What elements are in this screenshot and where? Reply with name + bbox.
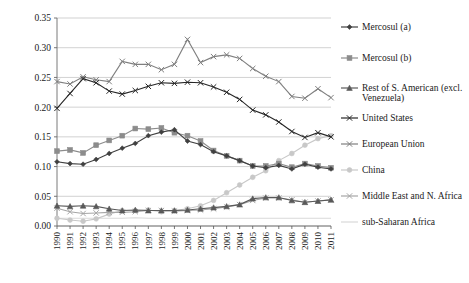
xtick-label: 2001	[196, 232, 206, 250]
series-european-union	[54, 37, 333, 101]
data-point-marker	[328, 95, 333, 100]
ytick-label: 0.10	[34, 162, 51, 172]
data-point-marker	[68, 161, 73, 166]
series-line	[57, 79, 331, 138]
xtick-label: 2010	[313, 232, 323, 251]
line-chart: 0.000.050.100.150.200.250.300.3519901991…	[0, 0, 469, 283]
xtick-label: 2009	[300, 232, 310, 251]
legend-item-united-states[interactable]: United States	[341, 113, 413, 123]
ytick-label: 0.25	[34, 73, 51, 83]
legend-item-sub-saharan-africa[interactable]: sub-Saharan Africa	[341, 217, 436, 227]
legend-label-line2: Venezuela)	[362, 93, 404, 104]
ytick-label: 0.00	[34, 221, 51, 231]
legend-label: European Union	[362, 139, 425, 149]
xtick-label: 1993	[91, 232, 101, 251]
data-point-marker	[263, 74, 268, 79]
data-point-marker	[55, 149, 60, 154]
xtick-label: 2005	[248, 232, 258, 251]
xtick-label: 1995	[117, 232, 127, 251]
data-point-marker	[55, 159, 60, 164]
xtick-label: 2004	[235, 232, 245, 251]
data-point-marker	[81, 219, 86, 224]
data-point-marker	[107, 138, 112, 143]
legend-item-mercosul-a[interactable]: Mercosul (a)	[341, 22, 411, 33]
data-point-marker	[289, 129, 294, 134]
data-point-marker	[315, 86, 320, 91]
xtick-label: 1999	[170, 232, 180, 251]
legend-item-european-union[interactable]: European Union	[341, 139, 425, 149]
data-point-marker	[81, 151, 86, 156]
data-point-marker	[107, 151, 112, 156]
data-point-marker	[276, 79, 281, 84]
data-point-marker	[315, 130, 320, 135]
ytick-label: 0.20	[34, 103, 51, 113]
data-point-marker	[81, 162, 86, 167]
legend-label: Mercosul (b)	[362, 53, 411, 64]
xtick-label: 2006	[261, 232, 271, 251]
data-point-marker	[198, 60, 203, 65]
legend-swatch-marker	[347, 56, 352, 61]
xtick-label: 1996	[130, 232, 140, 251]
data-point-marker	[250, 66, 255, 71]
xtick-label: 1998	[157, 232, 167, 251]
data-point-marker	[263, 112, 268, 117]
data-point-marker	[303, 143, 308, 148]
data-point-marker	[316, 136, 321, 141]
data-point-marker	[289, 151, 294, 156]
data-point-marker	[276, 119, 281, 124]
ytick-label: 0.15	[34, 132, 51, 142]
data-point-marker	[67, 91, 72, 96]
data-point-marker	[211, 84, 216, 89]
xtick-label: 1997	[144, 232, 154, 251]
ytick-label: 0.05	[34, 192, 51, 202]
legend-label: Mercosul (a)	[362, 22, 411, 33]
xtick-label: 1994	[104, 232, 114, 251]
data-point-marker	[159, 67, 164, 72]
data-point-marker	[94, 143, 99, 148]
data-point-marker	[133, 141, 138, 146]
data-point-marker	[94, 157, 99, 162]
xtick-label: 2008	[287, 232, 297, 251]
series-united-states	[54, 76, 333, 140]
data-point-marker	[68, 148, 73, 153]
xtick-label: 1990	[52, 232, 62, 251]
legend-item-china[interactable]: China	[341, 165, 385, 175]
data-point-marker	[224, 90, 229, 95]
xtick-label: 2011	[326, 232, 336, 250]
legend-swatch-marker	[347, 168, 352, 173]
legend-label: sub-Saharan Africa	[362, 217, 436, 227]
legend-item-rest-of-s-american-excl-venezuela[interactable]: Rest of S. American (excl.Venezuela)	[341, 83, 462, 104]
legend-label: Middle East and N. Africa	[362, 191, 463, 201]
legend-label: China	[362, 165, 385, 175]
chart-container: 0.000.050.100.150.200.250.300.3519901991…	[0, 0, 469, 283]
data-point-marker	[133, 126, 138, 131]
xtick-label: 2002	[209, 232, 219, 250]
data-point-marker	[93, 80, 98, 85]
data-point-marker	[211, 198, 216, 203]
data-point-marker	[120, 146, 125, 151]
xtick-label: 2007	[274, 232, 284, 251]
xtick-label: 2000	[183, 232, 193, 251]
data-point-marker	[146, 127, 151, 132]
legend-item-middle-east-and-n-africa[interactable]: Middle East and N. Africa	[341, 191, 463, 201]
xtick-label: 1992	[78, 232, 88, 250]
series-line	[57, 39, 331, 98]
data-point-marker	[185, 133, 190, 138]
xtick-label: 1991	[65, 232, 75, 250]
legend-swatch-marker	[347, 25, 352, 30]
data-point-marker	[55, 216, 60, 221]
data-point-marker	[250, 107, 255, 112]
data-point-marker	[224, 190, 229, 195]
data-point-marker	[68, 218, 73, 223]
legend-item-mercosul-b[interactable]: Mercosul (b)	[341, 53, 411, 64]
data-point-marker	[302, 135, 307, 140]
data-point-marker	[172, 62, 177, 67]
data-point-marker	[185, 37, 190, 42]
data-point-marker	[146, 133, 151, 138]
xtick-label: 2003	[222, 232, 232, 251]
data-point-marker	[250, 175, 255, 180]
series-line	[57, 130, 331, 169]
data-point-marker	[120, 133, 125, 138]
data-point-marker	[237, 97, 242, 102]
ytick-label: 0.30	[34, 43, 51, 53]
